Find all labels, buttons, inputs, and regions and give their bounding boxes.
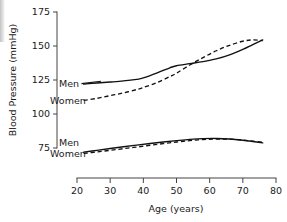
x-tick-label: 80 [270,185,282,196]
x-tick-label: 30 [104,185,116,196]
x-axis-ticks [77,178,276,183]
label-systolic-men: Men [59,78,79,89]
x-axis-tick-labels: 20304050607080 [71,185,282,196]
y-axis-tick-labels: 75100125150175 [32,6,50,153]
series-annotations: Men Women Men Women [50,78,101,159]
x-tick-label: 50 [170,185,182,196]
series-diastolic-men-line [84,138,263,152]
x-tick-label: 70 [237,185,249,196]
y-tick-label: 175 [32,6,50,17]
y-tick-label: 100 [32,108,50,119]
label-systolic-women: Women [50,95,86,106]
x-tick-label: 20 [71,185,83,196]
chart-canvas: 75100125150175 Blood Pressure (mmHg) 203… [0,0,287,222]
x-axis-title: Age (years) [149,203,204,214]
y-axis-group: 75100125150175 Blood Pressure (mmHg) [7,6,57,153]
y-axis-title: Blood Pressure (mmHg) [7,24,18,137]
series-systolic-women-line [84,40,263,101]
chart-figure: 75100125150175 Blood Pressure (mmHg) 203… [0,0,287,222]
x-tick-label: 40 [137,185,149,196]
y-tick-label: 75 [38,142,50,153]
label-diastolic-women: Women [50,148,86,159]
y-axis-ticks [53,12,57,148]
y-tick-label: 125 [32,74,50,85]
x-tick-label: 60 [204,185,216,196]
x-axis-group: 20304050607080 Age (years) [71,178,282,214]
y-tick-label: 150 [32,40,50,51]
data-curves [84,40,263,154]
series-systolic-men-line [84,40,263,84]
label-diastolic-men: Men [59,137,79,148]
